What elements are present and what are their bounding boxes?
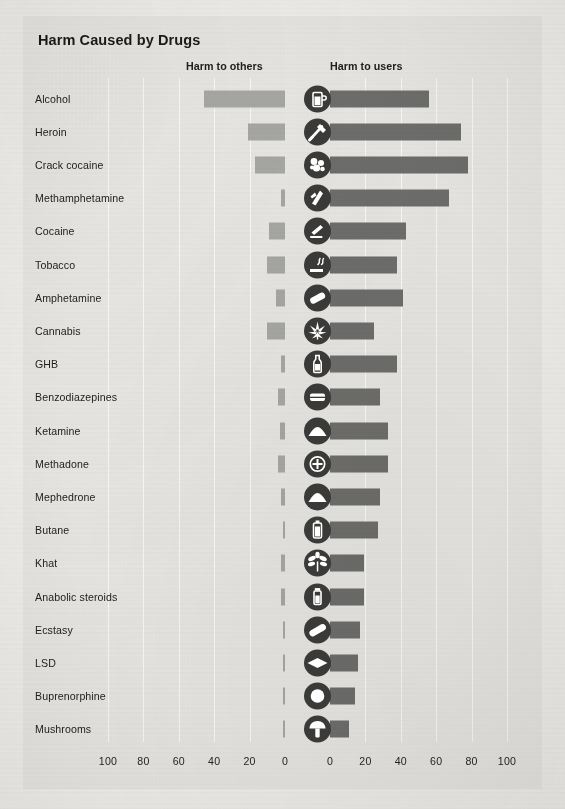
table-row: Khat <box>23 547 542 580</box>
bar-harm-to-others <box>281 588 285 605</box>
powder-mound-icon <box>304 417 331 444</box>
category-label-slot: Heroin <box>23 115 173 148</box>
bar-harm-to-others <box>281 190 285 207</box>
cross-pill-icon <box>304 450 331 477</box>
table-row: Cocaine <box>23 215 542 248</box>
category-label-slot: Methamphetamine <box>23 182 173 215</box>
category-label-slot: Methadone <box>23 447 173 480</box>
category-label-amphetamine: Amphetamine <box>35 292 101 304</box>
category-label-alcohol: Alcohol <box>35 93 70 105</box>
table-row: Butane <box>23 514 542 547</box>
category-label-slot: Benzodiazepines <box>23 381 173 414</box>
pill-capsule-icon <box>304 284 331 311</box>
table-row: Cannabis <box>23 314 542 347</box>
vial-icon <box>304 583 331 610</box>
table-row: Crack cocaine <box>23 148 542 181</box>
table-row: Methadone <box>23 447 542 480</box>
bar-harm-to-users <box>330 422 388 439</box>
cigarette-icon <box>304 251 331 278</box>
axis-tick-left-20: 20 <box>244 755 256 767</box>
category-label-slot: Anabolic steroids <box>23 580 173 613</box>
table-row: Tobacco <box>23 248 542 281</box>
bottle-icon <box>304 351 331 378</box>
bar-harm-to-others <box>267 322 285 339</box>
bar-harm-to-users <box>330 90 429 107</box>
category-label-ketamine: Ketamine <box>35 425 81 437</box>
category-label-cannabis: Cannabis <box>35 325 81 337</box>
category-label-slot: Crack cocaine <box>23 148 173 181</box>
table-row: Methamphetamine <box>23 182 542 215</box>
category-label-slot: Buprenorphine <box>23 680 173 713</box>
ecstasy-capsule-icon <box>304 616 331 643</box>
bar-harm-to-users <box>330 555 364 572</box>
table-row: Anabolic steroids <box>23 580 542 613</box>
category-label-slot: LSD <box>23 646 173 679</box>
category-label-benzodiazepines: Benzodiazepines <box>35 391 117 403</box>
bar-harm-to-others <box>267 256 285 273</box>
bar-harm-to-users <box>330 688 355 705</box>
bar-harm-to-others <box>255 156 285 173</box>
bar-harm-to-others <box>276 289 285 306</box>
mushroom-icon <box>304 716 331 743</box>
bar-harm-to-users <box>330 455 388 472</box>
plot-area: AlcoholHeroinCrack cocaineMethamphetamin… <box>23 16 542 789</box>
category-label-mephedrone: Mephedrone <box>35 491 96 503</box>
table-row: Alcohol <box>23 82 542 115</box>
page-background: Harm Caused by Drugs Harm to others Harm… <box>0 0 565 809</box>
bar-harm-to-others <box>281 356 285 373</box>
bar-harm-to-users <box>330 223 406 240</box>
table-row: Ketamine <box>23 414 542 447</box>
axis-tick-right-100: 100 <box>498 755 516 767</box>
axis-tick-right-40: 40 <box>395 755 407 767</box>
category-label-slot: Amphetamine <box>23 281 173 314</box>
beer-glass-icon <box>304 85 331 112</box>
bar-harm-to-others <box>281 555 285 572</box>
category-label-slot: Tobacco <box>23 248 173 281</box>
chart-panel: Harm Caused by Drugs Harm to others Harm… <box>23 16 542 789</box>
category-label-cocaine: Cocaine <box>35 225 75 237</box>
bar-harm-to-users <box>330 123 461 140</box>
bar-harm-to-others <box>248 123 285 140</box>
category-label-slot: Butane <box>23 514 173 547</box>
category-label-slot: Khat <box>23 547 173 580</box>
category-label-ecstasy: Ecstasy <box>35 624 73 636</box>
category-label-slot: Mushrooms <box>23 713 173 746</box>
lsd-tab-icon <box>304 649 331 676</box>
bar-harm-to-others <box>283 621 286 638</box>
bar-harm-to-others <box>204 90 285 107</box>
category-label-butane: Butane <box>35 524 69 536</box>
category-label-slot: Alcohol <box>23 82 173 115</box>
axis-tick-left-0: 0 <box>282 755 288 767</box>
category-label-buprenorphine: Buprenorphine <box>35 690 106 702</box>
table-row: Amphetamine <box>23 281 542 314</box>
cocaine-lines-icon <box>304 218 331 245</box>
bar-harm-to-users <box>330 190 449 207</box>
bar-harm-to-others <box>278 455 285 472</box>
bar-harm-to-users <box>330 721 349 738</box>
table-row: Mephedrone <box>23 480 542 513</box>
category-label-slot: Ecstasy <box>23 613 173 646</box>
axis-tick-right-80: 80 <box>466 755 478 767</box>
table-row: Benzodiazepines <box>23 381 542 414</box>
category-label-mushrooms: Mushrooms <box>35 723 91 735</box>
meth-crystal-icon <box>304 185 331 212</box>
category-label-slot: Cannabis <box>23 314 173 347</box>
bar-harm-to-users <box>330 488 380 505</box>
category-label-slot: Ketamine <box>23 414 173 447</box>
bar-harm-to-others <box>278 389 285 406</box>
axis-tick-left-40: 40 <box>208 755 220 767</box>
bar-harm-to-others <box>269 223 285 240</box>
round-pill-icon <box>304 683 331 710</box>
bar-harm-to-others <box>283 721 286 738</box>
bar-harm-to-users <box>330 356 397 373</box>
category-label-crack-cocaine: Crack cocaine <box>35 159 103 171</box>
axis-tick-left-100: 100 <box>99 755 117 767</box>
bar-harm-to-others <box>281 488 285 505</box>
bar-harm-to-others <box>280 422 285 439</box>
bar-harm-to-users <box>330 522 378 539</box>
bar-harm-to-users <box>330 289 403 306</box>
bar-harm-to-users <box>330 621 360 638</box>
bar-harm-to-users <box>330 156 468 173</box>
table-row: Mushrooms <box>23 713 542 746</box>
gas-canister-icon <box>304 517 331 544</box>
